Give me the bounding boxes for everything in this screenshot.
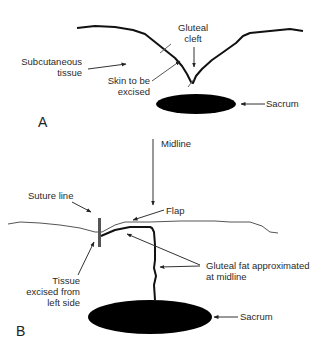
arrow-tissue-excised — [78, 242, 94, 275]
arrow-flap — [133, 210, 164, 220]
label-skin-line1: Skin to be — [100, 75, 150, 86]
label-gluteal-cleft-line1: Gluteal — [178, 22, 208, 33]
label-tissue-line1: Tissue — [18, 275, 80, 286]
arrow-subcutaneous — [88, 64, 126, 69]
arrow-suture-line — [72, 202, 91, 212]
label-gluteal-cleft: Gluteal cleft — [178, 22, 208, 44]
arrow-skin-excised — [152, 61, 180, 81]
flap-line — [101, 227, 156, 300]
label-sacrum-a: Sacrum — [266, 98, 299, 109]
panel-letter-b: B — [16, 323, 25, 339]
label-gluteal-cleft-line2: cleft — [178, 33, 208, 44]
sacrum-b — [88, 300, 212, 334]
label-flap: Flap — [166, 205, 184, 216]
arrow-gluteal-fat-2 — [160, 266, 200, 267]
sacrum-a — [156, 94, 236, 114]
label-suture-line: Suture line — [28, 190, 73, 201]
label-tissue-line3: left side — [18, 297, 80, 308]
suture-line-bar — [98, 218, 101, 247]
label-skin-line2: excised — [100, 86, 150, 97]
label-tissue-excised: Tissue excised from left side — [18, 275, 80, 308]
label-subcutaneous-tissue: Subcutaneous tissue — [18, 56, 82, 78]
label-gluteal-fat: Gluteal fat approximated at midline — [206, 260, 310, 282]
label-subcutaneous-line2: tissue — [18, 67, 82, 78]
label-sacrum-b: Sacrum — [240, 311, 273, 322]
panel-letter-a: A — [38, 114, 47, 130]
label-gluteal-fat-line2: at midline — [206, 271, 310, 282]
label-subcutaneous-line1: Subcutaneous — [18, 56, 82, 67]
label-skin-to-be-excised: Skin to be excised — [100, 75, 150, 97]
label-tissue-line2: excised from — [18, 286, 80, 297]
label-midline: Midline — [161, 138, 191, 149]
arrow-gluteal-fat-1 — [127, 234, 200, 265]
label-gluteal-fat-line1: Gluteal fat approximated — [206, 260, 310, 271]
